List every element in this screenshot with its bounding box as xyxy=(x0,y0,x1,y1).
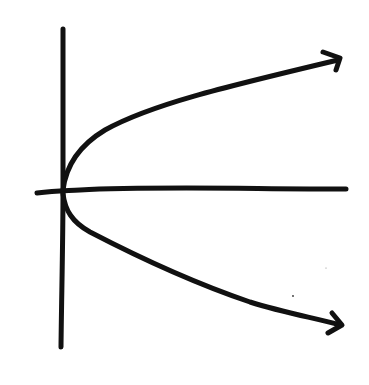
sketch-canvas: Sideways parabola opening to the right w… xyxy=(0,0,369,385)
parabola-diagram xyxy=(0,0,369,385)
lower-branch-curve xyxy=(63,194,340,325)
speck xyxy=(292,295,294,297)
upper-branch-curve xyxy=(63,60,338,190)
x-axis xyxy=(37,188,346,193)
speck xyxy=(325,267,326,268)
